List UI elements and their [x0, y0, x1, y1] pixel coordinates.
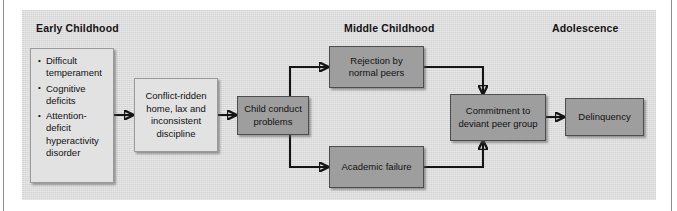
- node-family-context-label: Conflict-ridden home, lax and inconsiste…: [135, 90, 217, 140]
- diagram-panel: Early Childhood Middle Childhood Adolesc…: [22, 10, 656, 200]
- edge-conduct-to-rejection: [290, 67, 328, 96]
- node-peer-rejection-label: Rejection by normal peers: [330, 55, 423, 80]
- plate-rule-right: [671, 0, 672, 211]
- edge-academic-to-deviant: [424, 141, 483, 167]
- edge-conduct-to-academic: [290, 134, 328, 167]
- edge-rejection-to-deviant: [424, 67, 483, 94]
- risk-factor-item: Difficult temperament: [38, 55, 108, 80]
- node-deviant-peer-group[interactable]: Commitment to deviant peer group: [450, 94, 546, 141]
- node-child-risk-factors[interactable]: Difficult temperament Cognitive deficits…: [30, 48, 114, 183]
- node-family-context[interactable]: Conflict-ridden home, lax and inconsiste…: [134, 78, 218, 152]
- node-child-conduct-problems-label: Child conduct problems: [238, 103, 308, 128]
- plate-rule-left: [3, 0, 4, 211]
- stage-title-middle-childhood: Middle Childhood: [344, 22, 434, 34]
- stage-title-early-childhood: Early Childhood: [36, 22, 119, 34]
- node-delinquency-label: Delinquency: [573, 111, 635, 124]
- node-academic-failure-label: Academic failure: [336, 161, 416, 174]
- stage-title-adolescence: Adolescence: [552, 22, 618, 34]
- risk-factor-list: Difficult temperament Cognitive deficits…: [31, 49, 113, 162]
- node-peer-rejection[interactable]: Rejection by normal peers: [329, 46, 424, 88]
- node-deviant-peer-group-label: Commitment to deviant peer group: [451, 105, 545, 130]
- node-academic-failure[interactable]: Academic failure: [329, 146, 424, 188]
- node-child-conduct-problems[interactable]: Child conduct problems: [237, 96, 309, 135]
- figure-container: Early Childhood Middle Childhood Adolesc…: [0, 0, 677, 211]
- node-delinquency[interactable]: Delinquency: [565, 98, 644, 136]
- risk-factor-item: Cognitive deficits: [38, 83, 108, 108]
- risk-factor-item: Attention-deficit hyperactivity disorder: [38, 110, 108, 159]
